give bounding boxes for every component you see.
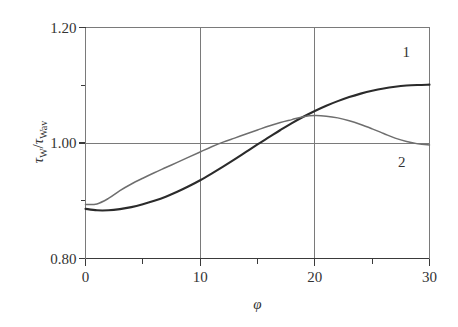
x-tick-label-10: 10 [180, 270, 220, 285]
minor-tick-marks [81, 85, 373, 263]
x-tick-label-20: 20 [295, 270, 335, 285]
x-tick-label-0: 0 [66, 270, 106, 285]
chart-figure: 1.20 1.00 0.80 0 10 20 30 φ τW/τWav 1 2 [0, 0, 458, 327]
x-tick-label-30: 30 [410, 270, 450, 285]
series-line-2 [86, 116, 430, 205]
y-tick-label-top: 1.20 [33, 21, 77, 36]
y-axis-title: τW/τWav [31, 92, 49, 192]
y-axis-numerator-subscript: W [38, 148, 49, 157]
y-axis-denominator-symbol: τ [30, 139, 46, 144]
curve-1-label: 1 [403, 45, 411, 60]
x-axis-title: φ [228, 297, 288, 312]
gridlines [86, 28, 430, 259]
series-line-1 [86, 85, 430, 211]
data-series-lines [86, 85, 430, 211]
y-tick-label-bottom: 0.80 [33, 252, 77, 267]
y-axis-denominator-subscript: Wav [38, 121, 49, 139]
curve-2-label: 2 [398, 155, 406, 170]
y-axis-numerator-symbol: τ [30, 158, 46, 163]
y-axis-separator: / [30, 144, 46, 148]
